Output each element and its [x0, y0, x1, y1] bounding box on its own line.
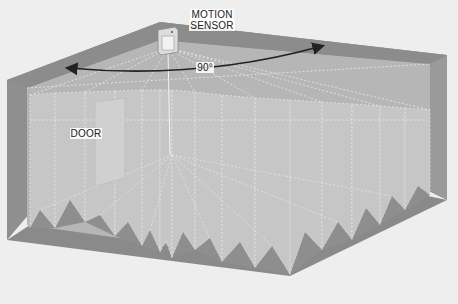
motion-sensor-label: MOTION SENSOR [182, 9, 242, 31]
sensor-label-line1: MOTION [190, 9, 233, 20]
door-label-text: DOOR [70, 128, 103, 139]
room-illustration [0, 0, 458, 304]
door-shape [95, 98, 125, 186]
motion-sensor-diagram: MOTION SENSOR 90° DOOR [0, 0, 458, 304]
angle-value: 90° [196, 62, 214, 73]
sensor-label-line2: SENSOR [189, 20, 234, 31]
motion-sensor-device [158, 27, 178, 55]
angle-label: 90° [192, 62, 218, 73]
door-label: DOOR [66, 128, 106, 139]
